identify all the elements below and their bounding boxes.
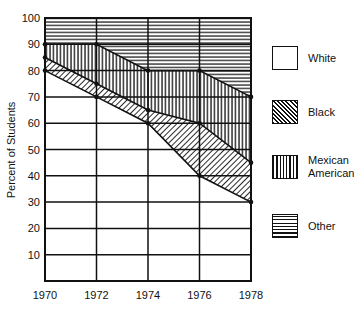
x-axis-ticks: 19701972197419761978 bbox=[33, 289, 263, 301]
legend-item-black: Black bbox=[272, 100, 335, 124]
legend-label-line2: American bbox=[308, 167, 354, 179]
vertical-hatch-swatch-icon bbox=[272, 155, 298, 179]
legend-label: White bbox=[308, 52, 336, 65]
x-tick-label: 1970 bbox=[33, 289, 57, 301]
y-axis-ticks: 102030405060708090100 bbox=[22, 12, 40, 261]
horizontal-hatch-swatch-icon bbox=[272, 214, 298, 238]
diagonal-hatch-swatch-icon bbox=[272, 100, 298, 124]
y-tick-label: 40 bbox=[28, 170, 40, 182]
x-tick-label: 1972 bbox=[84, 289, 108, 301]
white-swatch-icon bbox=[272, 46, 298, 70]
legend-label: Mexican American bbox=[308, 154, 354, 180]
y-tick-label: 90 bbox=[28, 38, 40, 50]
legend-label: Other bbox=[308, 220, 336, 233]
legend-item-mexican-american: Mexican American bbox=[272, 154, 354, 180]
x-tick-label: 1974 bbox=[136, 289, 160, 301]
x-tick-label: 1976 bbox=[187, 289, 211, 301]
y-tick-label: 80 bbox=[28, 65, 40, 77]
legend-label-line1: Mexican bbox=[308, 154, 349, 166]
y-tick-label: 60 bbox=[28, 117, 40, 129]
y-tick-label: 10 bbox=[28, 249, 40, 261]
legend-label: Black bbox=[308, 106, 335, 119]
y-tick-label: 20 bbox=[28, 222, 40, 234]
y-tick-label: 30 bbox=[28, 196, 40, 208]
y-tick-label: 70 bbox=[28, 91, 40, 103]
y-tick-label: 100 bbox=[22, 12, 40, 24]
y-axis-label: Percent of Students bbox=[5, 101, 17, 198]
y-tick-label: 50 bbox=[28, 144, 40, 156]
x-tick-label: 1978 bbox=[239, 289, 263, 301]
legend-item-white: White bbox=[272, 46, 336, 70]
legend-item-other: Other bbox=[272, 214, 336, 238]
